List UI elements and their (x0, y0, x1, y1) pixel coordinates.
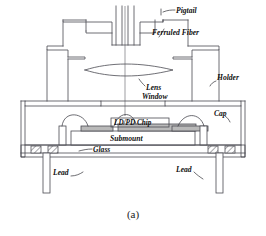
lead-pin-right (216, 153, 223, 193)
label-holder: Holder (216, 73, 240, 82)
figure-caption: (a) (127, 208, 140, 221)
lead-pin-left (43, 153, 50, 193)
cross-section-diagram: Pigtail Ferruled Fiber Holder Lens Windo… (0, 0, 266, 236)
label-lens: Lens (145, 83, 161, 92)
label-glass: Glass (93, 145, 110, 154)
glass-seal-hatch-left-outer (31, 146, 41, 153)
glass-seal-hatch-left-inner (48, 146, 58, 153)
label-lead-right: Lead (175, 165, 192, 174)
glass-seal-hatch-right-outer (225, 146, 235, 153)
label-window: Window (142, 92, 168, 101)
label-ld-pd-chip: LD/PD Chip (113, 119, 152, 127)
label-lead-left: Lead (52, 168, 69, 177)
label-pigtail: Pigtail (176, 6, 198, 15)
label-cap: Cap (214, 109, 227, 118)
figure-container: Pigtail Ferruled Fiber Holder Lens Windo… (0, 0, 266, 236)
glass-seal-hatch-right-inner (208, 146, 218, 153)
label-ferruled-fiber: Ferruled Fiber (152, 28, 200, 37)
label-submount: Submount (110, 134, 143, 143)
